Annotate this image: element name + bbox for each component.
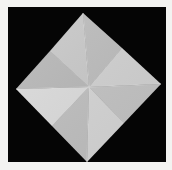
origami-photo (0, 0, 172, 170)
